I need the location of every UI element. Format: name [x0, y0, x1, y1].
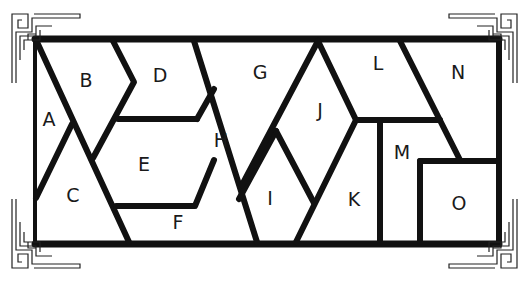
region-label-j: J	[316, 99, 323, 121]
region-label-b: B	[79, 69, 92, 91]
region-label-i: I	[267, 187, 273, 209]
corner-ornament-bottom-left-icon	[12, 199, 80, 268]
region-label-a: A	[43, 108, 56, 130]
region-label-k: K	[348, 188, 361, 210]
region-label-g: G	[253, 61, 268, 83]
region-diagram: A B C D E F G H I J K L M N O	[0, 0, 529, 282]
region-label-e: E	[138, 153, 150, 175]
region-label-f: F	[173, 211, 184, 233]
corner-ornament-top-left-icon	[12, 14, 80, 83]
region-label-n: N	[451, 61, 465, 83]
region-label-d: D	[153, 64, 168, 86]
region-label-l: L	[373, 52, 384, 74]
region-label-m: M	[394, 141, 410, 163]
region-labels: A B C D E F G H I J K L M N O	[43, 52, 467, 233]
region-label-o: O	[452, 192, 467, 214]
region-label-c: C	[66, 184, 79, 206]
region-label-h: H	[214, 129, 228, 151]
